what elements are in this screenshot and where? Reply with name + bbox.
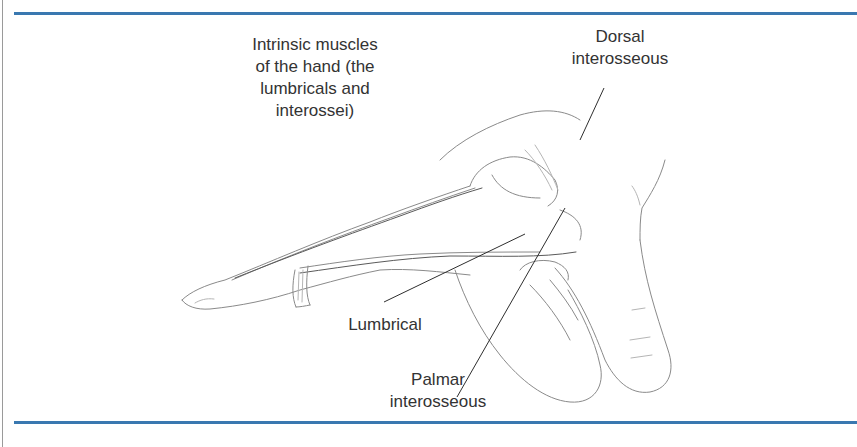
flexed-fingers-sketch: [455, 160, 671, 402]
index-finger-sketch: [182, 186, 576, 309]
dorsal-leader-line: [580, 88, 604, 140]
lumbrical-leader-line: [384, 234, 525, 302]
label-line: of the hand (the: [250, 56, 380, 78]
label-line: Intrinsic muscles: [250, 34, 380, 56]
label-line: Lumbrical: [340, 314, 430, 336]
label-line: lumbricals and: [250, 78, 380, 100]
label-intrinsic-muscles: Intrinsic muscles of the hand (the lumbr…: [250, 34, 380, 122]
label-dorsal-interosseous: Dorsal interosseous: [565, 26, 675, 70]
label-line: interosseous: [383, 391, 493, 413]
label-line: Palmar: [383, 369, 493, 391]
label-line: interosseous: [565, 48, 675, 70]
thumb-sketch: [440, 111, 581, 240]
label-line: interossei): [250, 100, 380, 122]
label-line: Dorsal: [565, 26, 675, 48]
label-lumbrical: Lumbrical: [340, 314, 430, 336]
label-palmar-interosseous: Palmar interosseous: [383, 369, 493, 413]
